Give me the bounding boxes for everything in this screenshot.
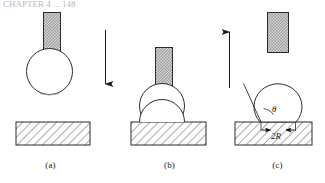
- panel-b-group: [131, 48, 206, 146]
- contact-angle-label: θ: [272, 104, 276, 114]
- substrate-b: [131, 122, 206, 145]
- panel-c-group: [235, 13, 312, 146]
- panel-a-group: [16, 13, 90, 146]
- sessile-droplet-c: [254, 84, 302, 122]
- panel-label-a: (a): [38, 160, 63, 170]
- pendant-droplet-a: [27, 49, 73, 95]
- figure-container: CHAPTER 4 ... 148: [0, 0, 325, 183]
- substrate-a: [16, 122, 90, 145]
- nozzle-c: [268, 13, 289, 53]
- panel-label-b: (b): [157, 160, 182, 170]
- base-width-label: 2R: [271, 131, 281, 141]
- figure-drawing: [0, 0, 325, 183]
- panel-label-c: (c): [265, 160, 290, 170]
